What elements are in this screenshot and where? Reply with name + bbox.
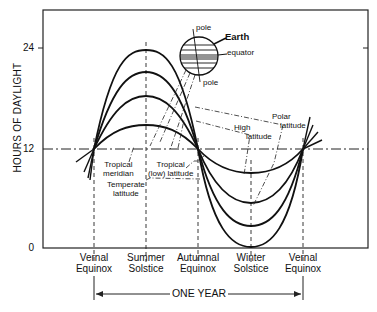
one-year-span: [0, 0, 377, 312]
annotation-polar: Polar latitude: [272, 112, 306, 130]
annotation-high: High latitude: [234, 123, 272, 141]
globe-equator: equator: [227, 48, 254, 57]
annotation-tropical-meridian: Tropical meridian: [103, 160, 134, 178]
globe-pole-bottom: pole: [203, 78, 218, 87]
annotation-tropical-low: Tropical (low) latitude: [148, 160, 193, 178]
globe-earth: Earth: [225, 32, 249, 41]
one-year-label: One Year: [170, 288, 228, 299]
globe-pole-top: pole: [196, 23, 211, 32]
annotation-temperate: Temperate latitude: [107, 180, 145, 198]
